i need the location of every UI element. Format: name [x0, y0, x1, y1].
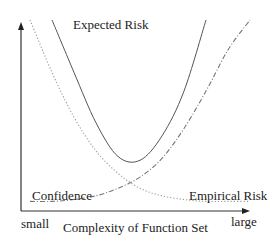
x-tick-large: large: [231, 214, 257, 229]
x-axis-label: Complexity of Function Set: [63, 220, 208, 235]
expected-risk-label: Expected Risk: [73, 17, 149, 32]
risk-diagram: Expected Risk Confidence Empirical Risk …: [0, 0, 279, 245]
expected-risk-curve: [52, 20, 206, 162]
empirical-risk-label: Empirical Risk: [189, 188, 268, 203]
x-tick-small: small: [21, 216, 50, 231]
confidence-label: Confidence: [32, 188, 92, 203]
